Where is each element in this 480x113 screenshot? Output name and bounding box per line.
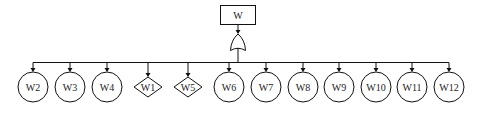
arrow-head-icon <box>410 68 415 72</box>
event-label: W6 <box>222 82 236 93</box>
event-label: W7 <box>259 82 273 93</box>
child-event-w11: W11 <box>397 63 427 103</box>
arrow-head-icon <box>337 68 342 72</box>
arrow-head-icon <box>105 68 110 72</box>
event-label: W12 <box>439 82 458 93</box>
event-label: W4 <box>100 82 114 93</box>
top-event-label: W <box>233 10 243 21</box>
arrow-head-icon <box>264 68 269 72</box>
top-event-w: W <box>221 6 256 25</box>
event-label: W1 <box>141 82 155 93</box>
child-event-w9: W9 <box>324 63 354 103</box>
arrow-head-icon <box>447 68 452 72</box>
event-label: W5 <box>181 82 195 93</box>
event-label: W3 <box>63 82 77 93</box>
arrow-head-icon <box>68 68 73 72</box>
child-event-w6: W6 <box>214 63 244 103</box>
child-event-w10: W10 <box>361 63 391 103</box>
arrow-head-icon <box>227 68 232 72</box>
child-event-w3: W3 <box>55 63 85 103</box>
event-label: W2 <box>26 82 40 93</box>
child-event-w2: W2 <box>18 63 48 103</box>
event-label: W11 <box>402 82 421 93</box>
arrow-head-icon <box>301 68 306 72</box>
child-event-w12: W12 <box>434 63 464 103</box>
child-event-w5: W5 <box>174 63 202 98</box>
fault-tree-diagram: W W2W3W4W1W5W6W7W8W9W10W11W12 <box>0 0 480 113</box>
child-event-w4: W4 <box>92 63 122 103</box>
event-label: W9 <box>332 82 346 93</box>
child-event-w8: W8 <box>288 63 318 103</box>
arrow-head-icon <box>374 68 379 72</box>
event-label: W10 <box>366 82 385 93</box>
child-event-w7: W7 <box>251 63 281 103</box>
arrow-head-icon <box>31 68 36 72</box>
child-event-w1: W1 <box>134 63 162 98</box>
event-label: W8 <box>296 82 310 93</box>
